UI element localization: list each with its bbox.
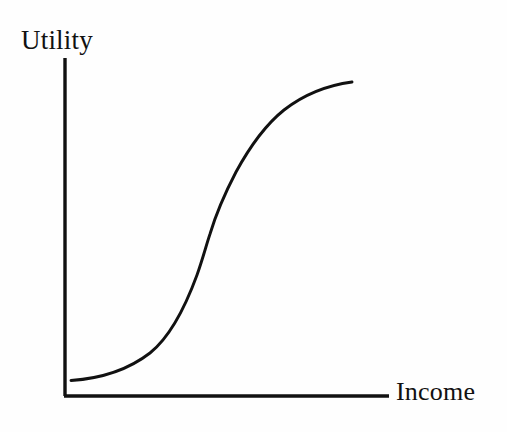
y-axis-label: Utility — [21, 27, 93, 54]
utility-curve — [71, 82, 352, 381]
chart-canvas — [0, 0, 507, 432]
utility-income-figure: Utility Income — [0, 0, 507, 432]
x-axis-label: Income — [396, 379, 475, 405]
